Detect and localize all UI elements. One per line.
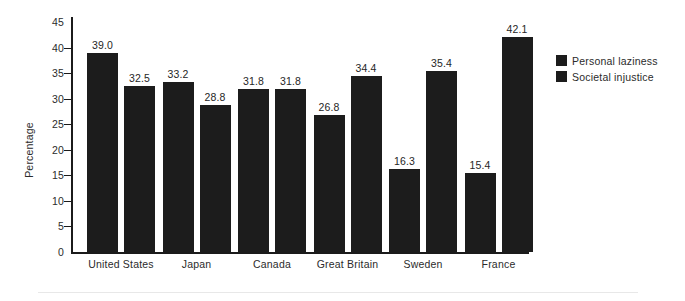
legend-item-label: Societal injustice	[572, 71, 654, 83]
x-axis-category-label: France	[449, 258, 549, 270]
bar	[465, 173, 496, 252]
y-axis-tick-label: 35	[42, 68, 64, 78]
bar-value-label: 31.8	[268, 76, 313, 87]
legend-swatch-icon	[556, 71, 567, 82]
bar-value-label: 39.0	[80, 40, 125, 51]
bar	[502, 37, 533, 252]
bar-value-label: 42.1	[495, 24, 540, 35]
y-axis-title-text: Percentage	[23, 122, 35, 178]
bar-value-label: 16.3	[382, 156, 427, 167]
y-axis-tick-label: 5	[42, 221, 64, 231]
legend-swatch-icon	[556, 55, 567, 66]
bar	[351, 76, 382, 252]
legend-item-label: Personal laziness	[572, 55, 658, 67]
bar-value-label: 33.2	[156, 69, 201, 80]
y-axis-tick-label: 30	[42, 94, 64, 104]
x-axis-line	[71, 252, 529, 254]
legend-item: Societal injustice	[556, 69, 681, 84]
y-axis-tick-label: 0	[42, 247, 64, 257]
bar-value-label: 35.4	[419, 58, 464, 69]
bar	[124, 86, 155, 252]
bar	[200, 105, 231, 252]
y-axis-line	[71, 17, 73, 254]
y-axis-tick-label: 10	[42, 196, 64, 206]
y-axis-tick-labels: 051015202530354045	[38, 0, 64, 301]
y-axis-tick-label: 15	[42, 170, 64, 180]
bar-value-label: 15.4	[458, 160, 503, 171]
page-rule-line	[38, 292, 638, 293]
bar	[87, 53, 118, 252]
bar-value-label: 26.8	[307, 102, 352, 113]
bar-value-label: 28.8	[193, 92, 238, 103]
bar-chart: Percentage 051015202530354045 39.032.533…	[0, 0, 685, 301]
legend: Personal lazinessSocietal injustice	[556, 53, 681, 85]
bar	[238, 89, 269, 252]
legend-item: Personal laziness	[556, 53, 681, 68]
y-axis-tick-label: 20	[42, 145, 64, 155]
bar-value-label: 34.4	[344, 63, 389, 74]
bar	[314, 115, 345, 252]
bar	[389, 169, 420, 252]
bar	[163, 82, 194, 252]
bar	[426, 71, 457, 252]
bar	[275, 89, 306, 252]
y-axis-tick-label: 25	[42, 119, 64, 129]
y-axis-tick-label: 45	[42, 17, 64, 27]
y-axis-tick-label: 40	[42, 43, 64, 53]
